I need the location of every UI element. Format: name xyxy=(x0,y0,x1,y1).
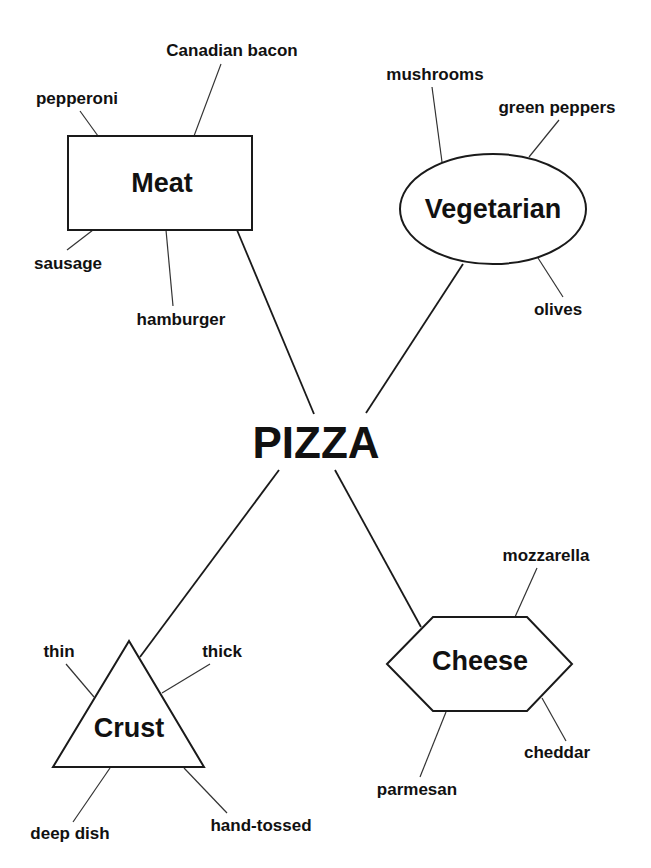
connector-hand-tossed xyxy=(184,768,227,813)
connector-meat-pizza xyxy=(237,230,314,414)
item-label-canadian-bacon: Canadian bacon xyxy=(166,41,297,60)
connector-olives xyxy=(538,258,563,297)
category-label-meat: Meat xyxy=(131,168,193,198)
category-label-cheese: Cheese xyxy=(432,646,528,676)
category-label-vegetarian: Vegetarian xyxy=(425,194,562,224)
item-label-parmesan: parmesan xyxy=(377,780,457,799)
connector-hamburger xyxy=(166,230,173,306)
item-label-sausage: sausage xyxy=(34,254,102,273)
connector-mozzarella xyxy=(515,568,537,617)
connector-vegetarian-pizza xyxy=(366,264,463,413)
item-label-mozzarella: mozzarella xyxy=(503,546,590,565)
connector-parmesan xyxy=(420,712,446,777)
connector-pizza-cheese xyxy=(335,470,421,627)
item-label-deep-dish: deep dish xyxy=(30,824,109,843)
pizza-concept-map: PIZZA Meat Vegetarian Crust Cheese peppe… xyxy=(0,0,651,868)
connector-mushrooms xyxy=(432,87,442,162)
item-label-hand-tossed: hand-tossed xyxy=(210,816,311,835)
item-label-mushrooms: mushrooms xyxy=(386,65,483,84)
item-label-cheddar: cheddar xyxy=(524,743,591,762)
connector-thin xyxy=(66,664,94,697)
connector-pepperoni xyxy=(80,111,98,136)
connector-pizza-crust xyxy=(140,470,279,657)
connector-cheddar xyxy=(542,698,566,741)
item-label-hamburger: hamburger xyxy=(137,310,226,329)
center-label: PIZZA xyxy=(252,418,379,467)
connector-thick xyxy=(162,664,210,693)
connector-canadian-bacon xyxy=(194,64,221,136)
crust-triangle xyxy=(53,641,204,767)
item-label-olives: olives xyxy=(534,300,582,319)
item-label-green-peppers: green peppers xyxy=(498,98,615,117)
item-label-thick: thick xyxy=(202,642,242,661)
item-label-thin: thin xyxy=(43,642,74,661)
connector-deep-dish xyxy=(73,768,110,822)
category-label-crust: Crust xyxy=(94,713,165,743)
item-label-pepperoni: pepperoni xyxy=(36,89,118,108)
connector-green-peppers xyxy=(529,120,559,157)
connector-sausage xyxy=(67,230,93,250)
